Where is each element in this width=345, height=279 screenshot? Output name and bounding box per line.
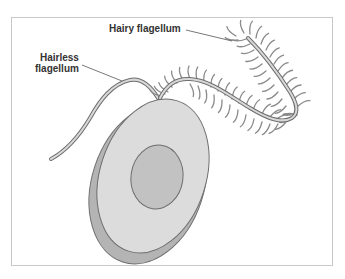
leader-line-hairy [186,30,232,41]
label-hairless-line1: Hairless [35,52,79,63]
label-hairless-line2: flagellum [35,63,79,74]
label-hairy-flagellum-text: Hairy flagellum [109,23,181,34]
leader-line-hairless [82,65,122,81]
label-hairy-flagellum: Hairy flagellum [109,23,181,34]
label-hairless-flagellum: Hairless flagellum [35,52,79,74]
flagellate-cell-diagram [0,0,345,279]
